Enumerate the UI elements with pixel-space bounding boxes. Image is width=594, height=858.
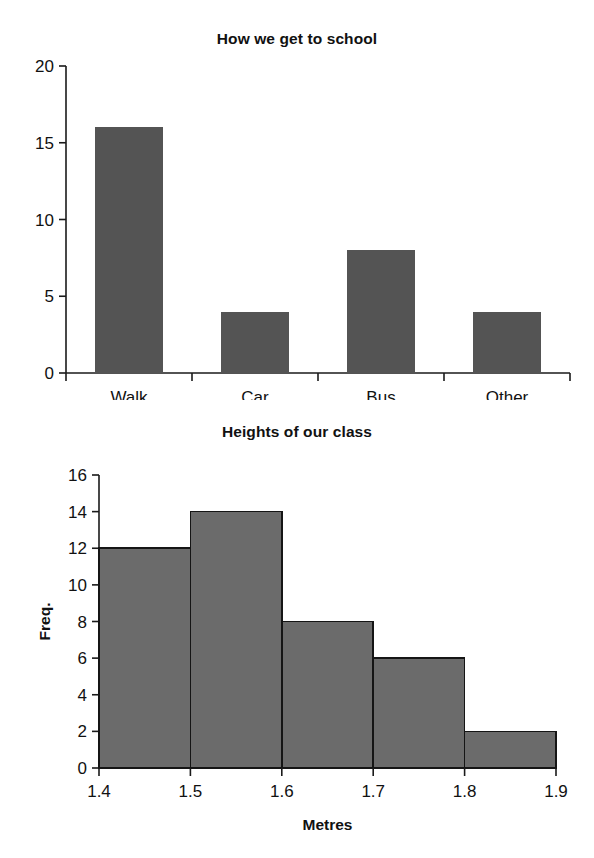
chart1-bar	[95, 127, 163, 373]
chart1-y-tick-label: 20	[35, 57, 54, 76]
chart2-bar	[465, 731, 556, 768]
chart1-y-tick-label: 0	[45, 364, 54, 383]
chart2-x-tick-label: 1.5	[179, 782, 203, 801]
chart1-bar	[221, 312, 289, 373]
chart2-y-tick-label: 10	[68, 576, 87, 595]
chart1-y-tick-label: 5	[45, 287, 54, 306]
chart2-x-tick-label: 1.6	[270, 782, 294, 801]
chart1-bar	[347, 250, 415, 373]
chart1-plot: 05101520WalkCarBusOther	[0, 0, 594, 400]
histogram-heights-of-our-class: Heights of our class 02468101214161.41.5…	[0, 415, 594, 858]
chart2-bar	[99, 548, 190, 768]
chart2-bar	[190, 512, 281, 768]
chart1-y-tick-label: 10	[35, 211, 54, 230]
chart2-y-tick-label: 6	[78, 649, 87, 668]
chart2-x-tick-label: 1.8	[453, 782, 477, 801]
chart1-bar	[473, 312, 541, 373]
chart2-y-axis-title: Freq.	[36, 603, 53, 641]
chart2-x-tick-label: 1.7	[361, 782, 385, 801]
chart2-y-tick-label: 2	[78, 722, 87, 741]
chart1-category-label: Walk	[110, 388, 148, 400]
chart2-x-tick-label: 1.4	[87, 782, 111, 801]
chart2-y-tick-label: 0	[78, 759, 87, 778]
chart1-category-label: Car	[241, 388, 269, 400]
chart2-x-axis-title: Metres	[303, 816, 353, 833]
chart2-bar	[373, 658, 464, 768]
chart1-category-label: Other	[486, 388, 529, 400]
chart2-bar	[282, 622, 373, 769]
chart2-y-tick-label: 4	[78, 686, 87, 705]
chart2-y-tick-label: 8	[78, 613, 87, 632]
chart2-y-tick-label: 14	[68, 503, 87, 522]
chart2-y-tick-label: 16	[68, 466, 87, 485]
chart1-category-label: Bus	[366, 388, 395, 400]
chart2-y-tick-label: 12	[68, 539, 87, 558]
chart2-x-tick-label: 1.9	[544, 782, 568, 801]
chart1-y-tick-label: 15	[35, 134, 54, 153]
chart2-plot: 02468101214161.41.51.61.71.81.9MetresFre…	[0, 415, 594, 858]
